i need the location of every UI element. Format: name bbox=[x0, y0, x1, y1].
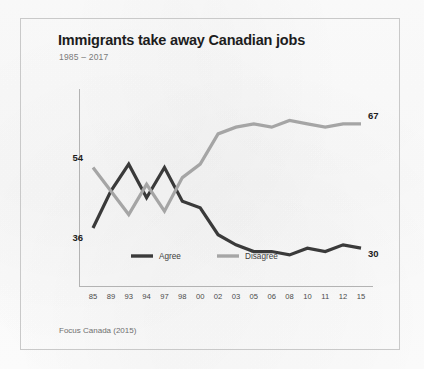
chart-source-note: Focus Canada (2015) bbox=[59, 326, 136, 335]
x-tick-label: 03 bbox=[232, 292, 240, 301]
x-tick-label: 98 bbox=[178, 292, 186, 301]
endpoint-label-agree-end: 30 bbox=[368, 248, 379, 259]
x-tick-label: 93 bbox=[124, 292, 132, 301]
x-tick-label: 12 bbox=[339, 292, 347, 301]
endpoint-label-disagree-start: 54 bbox=[72, 152, 83, 163]
x-tick-label: 85 bbox=[89, 292, 97, 301]
x-tick-label: 00 bbox=[196, 292, 204, 301]
chart-tick-labels: 85899394979800020305060810111215 bbox=[89, 292, 365, 301]
x-tick-label: 89 bbox=[107, 292, 115, 301]
x-tick-label: 15 bbox=[357, 292, 365, 301]
x-tick-label: 94 bbox=[142, 292, 150, 301]
x-tick-label: 10 bbox=[303, 292, 311, 301]
endpoint-label-agree-start: 36 bbox=[72, 232, 83, 243]
x-tick-label: 05 bbox=[250, 292, 258, 301]
line-chart-plot: 85899394979800020305060810111215 3630546… bbox=[21, 19, 401, 351]
series-line-disagree bbox=[93, 120, 361, 214]
chart-legend: AgreeDisagree bbox=[131, 252, 278, 261]
endpoint-label-disagree-end: 67 bbox=[368, 110, 379, 121]
chart-series-group bbox=[93, 120, 361, 254]
legend-label-agree: Agree bbox=[159, 252, 181, 261]
x-tick-label: 06 bbox=[267, 292, 275, 301]
x-tick-label: 11 bbox=[321, 292, 329, 301]
chart-screenshot: Immigrants take away Canadian jobs 1985 … bbox=[0, 0, 424, 369]
x-tick-label: 02 bbox=[214, 292, 222, 301]
x-tick-label: 08 bbox=[285, 292, 293, 301]
legend-label-disagree: Disagree bbox=[245, 252, 278, 261]
figure-frame: Immigrants take away Canadian jobs 1985 … bbox=[20, 18, 400, 350]
x-tick-label: 97 bbox=[160, 292, 168, 301]
